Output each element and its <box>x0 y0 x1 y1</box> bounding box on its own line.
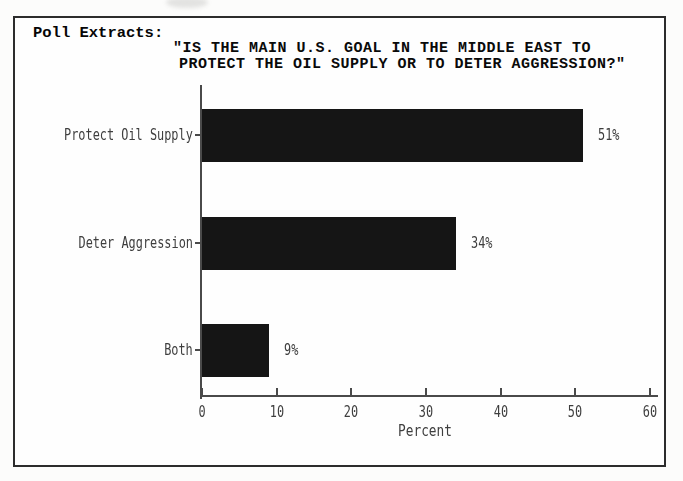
scan-artifact <box>166 0 208 8</box>
x-tick-label: 0 <box>191 402 213 421</box>
bar <box>202 324 269 377</box>
x-axis-tick <box>276 388 278 397</box>
category-tick <box>195 349 202 351</box>
page-title: Poll Extracts: <box>33 24 163 42</box>
x-axis-tick <box>574 388 576 397</box>
chart-title-line1: "IS THE MAIN U.S. GOAL IN THE MIDDLE EAS… <box>173 40 591 57</box>
x-axis-label: Percent <box>389 421 461 440</box>
category-label: Deter Aggression <box>79 232 193 254</box>
x-axis-tick <box>649 388 651 397</box>
value-label: 51% <box>598 124 619 146</box>
x-tick-label: 60 <box>639 402 661 421</box>
x-axis-tick <box>500 388 502 397</box>
category-tick <box>195 242 202 244</box>
x-tick-label: 30 <box>415 402 437 421</box>
x-axis-tick <box>350 388 352 397</box>
x-axis-tick <box>201 388 203 397</box>
x-axis <box>200 395 658 397</box>
category-label: Protect Oil Supply <box>64 124 193 146</box>
x-tick-label: 20 <box>341 402 363 421</box>
bar <box>202 109 583 162</box>
value-label: 9% <box>284 339 298 361</box>
chart-title-line2: PROTECT THE OIL SUPPLY OR TO DETER AGGRE… <box>179 56 626 73</box>
poll-chart-frame: Poll Extracts: "IS THE MAIN U.S. GOAL IN… <box>13 16 666 467</box>
bar <box>202 217 456 270</box>
x-tick-label: 10 <box>266 402 288 421</box>
x-tick-label: 50 <box>565 402 587 421</box>
x-axis-tick <box>425 388 427 397</box>
category-label: Both <box>164 339 193 361</box>
value-label: 34% <box>471 232 492 254</box>
category-tick <box>195 134 202 136</box>
x-tick-label: 40 <box>490 402 512 421</box>
